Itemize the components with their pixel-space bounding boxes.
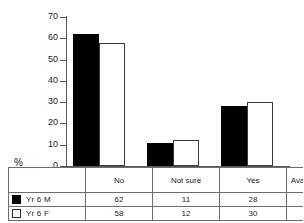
legend-label: Yr 6 F [26,209,49,218]
bar-group [214,17,288,166]
table-header-cell: Available sample [287,168,304,193]
y-axis-tick-label: 10 [36,140,58,149]
bar-group [140,17,214,166]
y-axis-tick-label: 40 [36,76,58,85]
y-axis-tick-label: 60 [36,33,58,42]
legend-cell: Yr 6 M [9,193,86,207]
table-cell: 62 [86,193,153,207]
table-header-cell: Yes [220,168,287,193]
bar-female [247,102,273,166]
table-header-blank [9,168,86,193]
bar-female [173,140,199,166]
y-axis-tick-label: 50 [36,55,58,64]
y-axis-tick-label: 30 [36,97,58,106]
bar-male [73,34,99,166]
bar-chart-figure: 010203040506070 % NoNot sureYesAvailable… [0,0,303,223]
table-header-row: NoNot sureYesAvailable sample [9,168,304,193]
table-row: Yr 6 M6211283303 [9,193,304,207]
table-cell: 12 [153,207,220,221]
table-cell: 3303 [287,193,304,207]
bar-group [66,17,140,166]
hollow-square-icon [12,209,21,218]
table-row: Yr 6 F5812303285 [9,207,304,221]
table-cell: 30 [220,207,287,221]
bar-male [147,143,173,166]
table-header-cell: Not sure [153,168,220,193]
y-axis-tick-label: 70 [36,12,58,21]
plot-area [66,17,290,166]
legend-cell: Yr 6 F [9,207,86,221]
table-cell: 3285 [287,207,304,221]
table-cell: 28 [220,193,287,207]
table-cell: 11 [153,193,220,207]
legend-label: Yr 6 M [26,195,51,204]
data-table: NoNot sureYesAvailable sampleYr 6 M62112… [8,167,303,221]
table-header-cell: No [86,168,153,193]
bar-female [99,43,125,166]
y-axis-tick-label: 20 [36,118,58,127]
table-cell: 58 [86,207,153,221]
filled-square-icon [12,195,21,204]
bar-male [221,106,247,166]
